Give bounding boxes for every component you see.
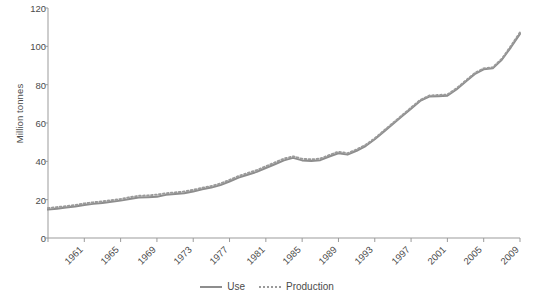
chart-container: Million tonnes 020406080100120 196119651… (0, 0, 534, 304)
series-line-use (48, 34, 520, 210)
series-line-production (48, 32, 520, 208)
plot-area (0, 0, 534, 304)
legend-item-use[interactable]: Use (200, 281, 245, 292)
chart-legend: Use Production (0, 281, 534, 292)
legend-item-production[interactable]: Production (259, 281, 334, 292)
legend-label-use: Use (227, 281, 245, 292)
legend-line-dotted-icon (259, 286, 281, 288)
legend-label-production: Production (286, 281, 334, 292)
legend-line-solid-icon (200, 286, 222, 288)
